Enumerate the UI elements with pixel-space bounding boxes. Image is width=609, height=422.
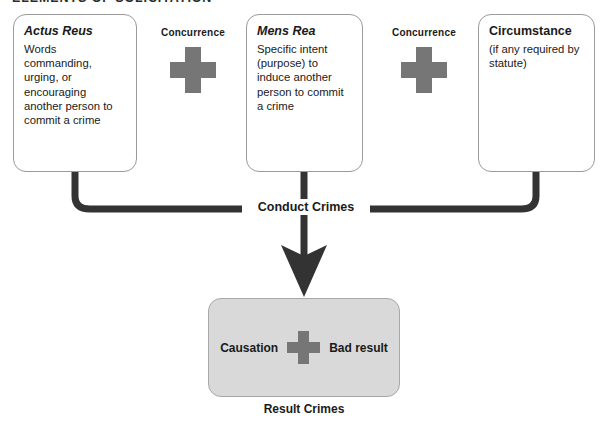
plus-icon xyxy=(401,47,447,93)
element-box-actus-reus[interactable]: Actus Reus Words commanding, urging, or … xyxy=(13,14,137,172)
diagram-canvas: ELEMENTS OF SOLICITATION Actus Reus Word… xyxy=(0,0,609,422)
element-title: Mens Rea xyxy=(257,24,353,39)
element-body: Words commanding, urging, or encouraging… xyxy=(24,42,127,127)
plus-icon xyxy=(287,331,320,364)
concurrence-label: Concurrence xyxy=(381,27,467,38)
result-crimes-box[interactable]: Causation Bad result xyxy=(208,298,400,397)
element-body: Specific intent (purpose) to induce anot… xyxy=(257,42,353,113)
causation-label: Causation xyxy=(220,341,278,355)
element-title: Circumstance xyxy=(489,24,585,39)
element-title: Actus Reus xyxy=(24,24,127,39)
bad-result-label: Bad result xyxy=(329,341,388,355)
element-box-mens-rea[interactable]: Mens Rea Specific intent (purpose) to in… xyxy=(246,14,363,172)
concurrence-label: Concurrence xyxy=(150,27,236,38)
element-box-circumstance[interactable]: Circumstance (if any required by statute… xyxy=(478,14,595,172)
plus-icon xyxy=(170,47,216,93)
conduct-crimes-label: Conduct Crimes xyxy=(242,199,370,215)
result-crimes-row: Causation Bad result xyxy=(209,299,399,396)
concurrence-group-2: Concurrence xyxy=(381,27,467,93)
result-crimes-caption: Result Crimes xyxy=(208,402,400,416)
concurrence-group-1: Concurrence xyxy=(150,27,236,93)
element-body: (if any required by statute) xyxy=(489,42,585,70)
